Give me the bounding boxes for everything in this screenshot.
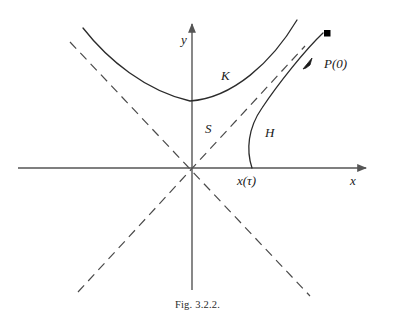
figure-container: y x K H S P(0) x(τ) Fig. 3.2.2. — [0, 0, 395, 328]
figure-diagram — [0, 0, 395, 328]
curve-h — [249, 33, 323, 168]
point-x-tau-label: x(τ) — [237, 174, 256, 187]
y-axis-label: y — [181, 33, 187, 46]
direction-arrow-icon — [303, 58, 312, 69]
x-axis-label: x — [350, 174, 356, 187]
point-marker-p0 — [324, 30, 331, 37]
figure-caption: Fig. 3.2.2. — [0, 299, 395, 310]
curve-h-label: H — [265, 126, 274, 139]
point-p0-label: P(0) — [324, 57, 347, 70]
line-s-label: S — [205, 122, 212, 135]
curve-k-label: K — [221, 69, 230, 82]
